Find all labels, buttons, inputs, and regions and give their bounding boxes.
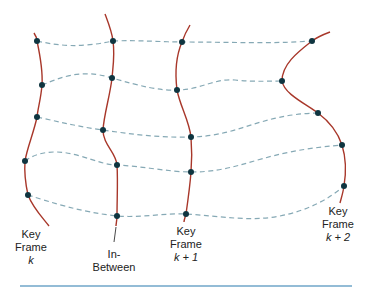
label-line: Key — [329, 205, 348, 217]
point — [39, 82, 45, 88]
label-line: k + 2 — [326, 231, 350, 243]
point — [22, 158, 28, 164]
label-line: Frame — [15, 241, 47, 253]
point — [279, 78, 285, 84]
point — [309, 38, 315, 44]
label-key-frame-k-plus-2: Key Frame k + 2 — [322, 205, 354, 243]
point — [114, 213, 120, 219]
label-line: k — [28, 254, 34, 266]
point — [109, 75, 115, 81]
point — [114, 162, 120, 168]
point — [100, 127, 106, 133]
label-line: Key — [177, 225, 196, 237]
correspondence-line-1 — [37, 41, 312, 46]
point — [315, 110, 321, 116]
label-in-between: In- Between — [93, 248, 136, 273]
curve-in-between — [103, 14, 117, 226]
curve-key-frame-k-plus-2 — [282, 32, 345, 203]
correspondence-lines — [25, 41, 344, 219]
point — [179, 39, 185, 45]
label-line: Between — [93, 261, 136, 273]
label-key-frame-k: Key Frame k — [15, 228, 47, 266]
point — [341, 183, 347, 189]
point — [174, 87, 180, 93]
label-line: k + 1 — [174, 251, 198, 263]
point — [183, 211, 189, 217]
point — [25, 192, 31, 198]
label-key-frame-k-plus-1: Key Frame k + 1 — [170, 225, 202, 263]
point — [339, 142, 345, 148]
correspondence-line-3 — [37, 113, 318, 137]
point — [188, 169, 194, 175]
point — [188, 134, 194, 140]
point — [110, 38, 116, 44]
keyframe-diagram: Key Frame k In- Between Key Frame k + 1 … — [0, 0, 369, 292]
label-line: In- — [108, 248, 121, 260]
label-line: Frame — [322, 218, 354, 230]
label-line: Frame — [170, 238, 202, 250]
in-between-leader-line — [114, 227, 116, 242]
label-line: Key — [22, 228, 41, 240]
correspondence-line-2 — [42, 74, 282, 90]
correspondence-line-4 — [25, 145, 342, 172]
curve-points — [22, 38, 347, 219]
point — [34, 114, 40, 120]
curve-key-frame-k-plus-1 — [176, 25, 192, 222]
point — [34, 38, 40, 44]
